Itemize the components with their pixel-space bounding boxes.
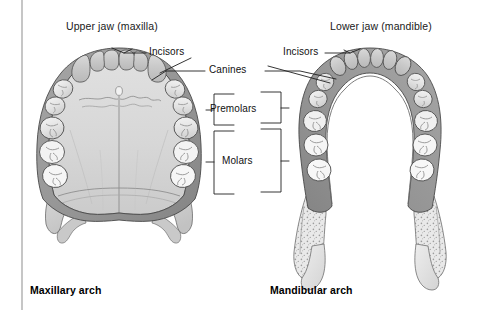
incisors-left-label: Incisors [149, 46, 184, 57]
mandibular-arch-caption: Mandibular arch [270, 284, 353, 296]
incisors-right-label: Incisors [283, 46, 318, 57]
maxillary-arch-caption: Maxillary arch [30, 284, 101, 296]
mandibular-arch-drawing [294, 48, 446, 290]
premolars-label: Premolars [210, 103, 256, 114]
molars-label: Molars [222, 155, 253, 166]
dental-arches-figure: Upper jaw (maxilla) Lower jaw (mandible)… [0, 0, 494, 310]
maxillary-arch-drawing [37, 48, 202, 243]
canines-label: Canines [209, 64, 246, 75]
lower-jaw-title: Lower jaw (mandible) [330, 20, 432, 32]
upper-jaw-title: Upper jaw (maxilla) [66, 20, 158, 32]
